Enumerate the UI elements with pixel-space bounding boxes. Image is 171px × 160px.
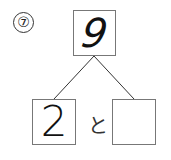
answer-box[interactable] xyxy=(112,99,156,145)
total-value: 9 xyxy=(79,13,110,53)
total-box: 9 xyxy=(73,10,116,56)
left-part-box: 2 xyxy=(32,99,76,145)
left-part-value: 2 xyxy=(41,101,68,143)
connector-text: と xyxy=(88,110,108,139)
